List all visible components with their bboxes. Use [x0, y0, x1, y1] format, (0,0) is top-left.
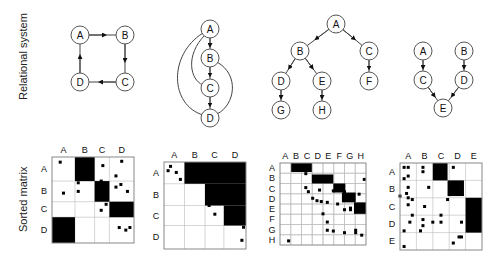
col-label-D: D [118, 145, 125, 155]
matrix-dot [452, 242, 455, 245]
matrix-dot [408, 221, 411, 224]
sorted-matrix-tree: AABBCCDDEEFFGGHH [268, 151, 366, 245]
node-F: F [360, 72, 378, 90]
panel-converge: ABCDE [414, 42, 473, 117]
matrix-dot [421, 218, 424, 221]
node-A: A [201, 20, 219, 38]
matrix-dot [407, 166, 410, 169]
row-label-E: E [269, 204, 275, 214]
matrix-dot [405, 192, 408, 195]
svg-text:D: D [277, 76, 284, 87]
matrix-dot [62, 192, 65, 195]
matrix-dot [407, 175, 410, 178]
node-E: E [313, 72, 331, 90]
matrix-dot [77, 181, 80, 184]
col-label-A: A [60, 145, 66, 155]
sorted-matrix-ring: AABBCCDD [41, 145, 134, 243]
matrix-dot [403, 229, 406, 232]
col-label-A: A [282, 151, 288, 161]
matrix-dot [411, 214, 414, 217]
arrow-icon [428, 87, 434, 95]
matrix-dot [452, 166, 455, 169]
row-label-D: D [269, 194, 276, 204]
node-B: B [201, 49, 219, 67]
node-B: B [116, 26, 134, 44]
row-label-B: B [41, 186, 47, 196]
col-label-D: D [232, 150, 239, 160]
row-label-D: D [389, 219, 396, 229]
matrix-dot [460, 221, 463, 224]
matrix-dot [421, 170, 424, 173]
matrix-dot [427, 186, 430, 189]
svg-text:B: B [461, 46, 468, 57]
matrix-dot [318, 189, 321, 192]
matrix-dot [358, 193, 361, 196]
matrix-dot [332, 189, 335, 192]
svg-text:C: C [365, 46, 372, 57]
matrix-dot [238, 221, 241, 224]
arrow-icon [343, 30, 354, 39]
svg-text:E: E [319, 76, 326, 87]
arrow-icon [452, 87, 458, 95]
matrix-dot [114, 186, 117, 189]
matrix-dot [403, 177, 406, 180]
curved-edge [177, 33, 203, 115]
row-label-H: H [269, 235, 276, 245]
matrix-dot [431, 221, 434, 224]
node-C: C [414, 71, 432, 89]
matrix-dot [407, 196, 410, 199]
matrix-dot [343, 208, 346, 211]
col-label-C: C [211, 150, 218, 160]
matrix-dot [169, 165, 172, 168]
matrix-dot [336, 203, 339, 206]
col-label-B: B [422, 151, 428, 161]
row-label-C: C [269, 184, 276, 194]
row-label-D: D [41, 225, 48, 235]
dense-block [448, 180, 464, 196]
matrix-dot [197, 165, 200, 168]
matrix-dot [179, 178, 182, 181]
matrix-dot [349, 198, 352, 201]
arrow-icon [289, 59, 295, 68]
matrix-dot [304, 172, 307, 175]
row-label-C: C [389, 202, 396, 212]
matrix-dot [235, 208, 238, 211]
dense-block [205, 184, 246, 206]
matrix-dot [407, 203, 410, 206]
matrix-dot [224, 195, 227, 198]
svg-text:C: C [419, 75, 426, 86]
dense-block [95, 181, 110, 202]
figure-canvas: Relational system Sorted matrix ABCDAABB… [0, 0, 502, 265]
matrix-dot [224, 213, 227, 216]
row-label-G: G [268, 225, 275, 235]
row-label-C: C [153, 211, 160, 221]
matrix-dot [421, 166, 424, 169]
col-label-D: D [454, 151, 461, 161]
matrix-dot [287, 239, 290, 242]
node-C: C [201, 79, 219, 97]
dense-block [109, 202, 134, 217]
matrix-dot [326, 221, 329, 224]
matrix-dot [304, 186, 307, 189]
matrix-dot [126, 190, 129, 193]
svg-text:A: A [333, 19, 340, 30]
matrix-dot [124, 229, 127, 232]
matrix-dot [242, 226, 245, 229]
arrow-icon [316, 29, 328, 38]
svg-text:A: A [207, 24, 214, 35]
matrix-dot [98, 190, 101, 193]
matrix-dot [421, 224, 424, 227]
matrix-dot [208, 162, 211, 165]
node-C: C [116, 73, 134, 91]
col-label-C: C [304, 151, 311, 161]
col-label-B: B [192, 150, 198, 160]
col-label-B: B [82, 145, 88, 155]
matrix-dot [230, 214, 233, 217]
matrix-dot [411, 198, 414, 201]
matrix-dot [326, 229, 329, 232]
matrix-dot [440, 221, 443, 224]
node-A: A [414, 42, 432, 60]
svg-text:D: D [206, 113, 213, 124]
svg-text:A: A [420, 46, 427, 57]
row-label-B: B [269, 173, 275, 183]
